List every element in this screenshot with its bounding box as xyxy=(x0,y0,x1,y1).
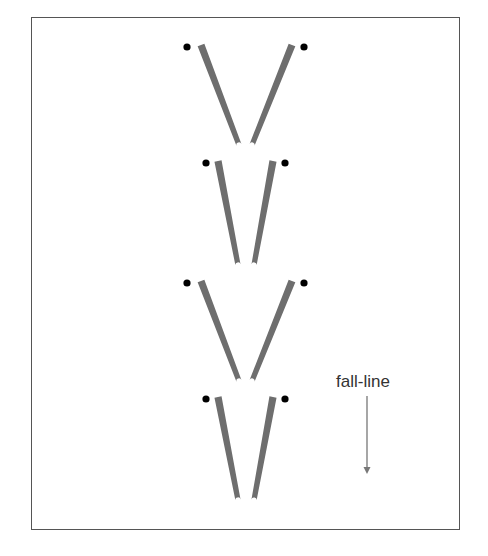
left-ski xyxy=(214,160,240,265)
right-pole-plant-dot xyxy=(281,395,288,402)
left-pole-plant-dot xyxy=(183,279,190,286)
right-ski xyxy=(250,280,296,382)
fall-line-arrow-icon xyxy=(364,396,371,474)
ski-pair-1 xyxy=(183,43,307,146)
left-pole-plant-dot xyxy=(183,43,190,50)
left-ski xyxy=(198,44,242,146)
left-pole-plant-dot xyxy=(202,395,209,402)
ski-diagram xyxy=(0,0,488,556)
right-pole-plant-dot xyxy=(300,43,307,50)
right-pole-plant-dot xyxy=(300,279,307,286)
left-ski xyxy=(214,396,240,500)
right-ski xyxy=(251,160,276,265)
ski-pair-4 xyxy=(202,395,288,500)
right-ski xyxy=(251,396,276,500)
left-ski xyxy=(198,280,242,382)
right-ski xyxy=(250,44,296,146)
ski-pair-3 xyxy=(183,279,307,382)
left-pole-plant-dot xyxy=(202,159,209,166)
right-pole-plant-dot xyxy=(281,159,288,166)
fall-line-label: fall-line xyxy=(336,372,390,392)
ski-pair-2 xyxy=(202,159,288,265)
